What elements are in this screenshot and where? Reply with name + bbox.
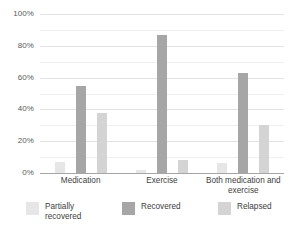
y-axis-tick-label: 100% xyxy=(13,10,34,18)
y-axis-tick-label: 40% xyxy=(18,105,34,113)
bar[interactable] xyxy=(259,125,269,173)
bar-chart: 100%80%60%40%20%0% MedicationExerciseBot… xyxy=(0,0,292,242)
bar[interactable] xyxy=(217,163,227,173)
axis-baseline xyxy=(40,173,284,174)
y-axis-tick-label: 80% xyxy=(18,42,34,50)
legend-item[interactable]: Recovered xyxy=(100,202,196,215)
legend-label: Relapsed xyxy=(237,202,272,212)
legend-label: Recovered xyxy=(141,202,181,212)
legend-swatch-icon xyxy=(122,202,135,215)
bar[interactable] xyxy=(97,113,107,173)
category-label: Medication xyxy=(40,176,121,196)
chart-legend: Partially recoveredRecoveredRelapsed xyxy=(0,202,292,236)
bar[interactable] xyxy=(55,162,65,173)
category-label: Exercise xyxy=(121,176,202,196)
bar[interactable] xyxy=(157,35,167,173)
bar-group xyxy=(40,14,121,173)
bar[interactable] xyxy=(76,86,86,173)
category-axis-labels: MedicationExerciseBoth medication and ex… xyxy=(40,176,284,196)
legend-item[interactable]: Relapsed xyxy=(196,202,292,215)
legend-swatch-icon xyxy=(26,202,39,215)
plot-area xyxy=(40,14,284,173)
bar[interactable] xyxy=(238,73,248,173)
legend-label: Partially recovered xyxy=(45,202,100,221)
y-axis-tick-label: 60% xyxy=(18,74,34,82)
legend-swatch-icon xyxy=(218,202,231,215)
legend-item[interactable]: Partially recovered xyxy=(0,202,100,221)
y-axis-tick-label: 0% xyxy=(22,169,34,177)
bar-group xyxy=(121,14,202,173)
bar-group xyxy=(203,14,284,173)
bar-groups xyxy=(40,14,284,173)
y-axis-tick-label: 20% xyxy=(18,137,34,145)
y-axis: 100%80%60%40%20%0% xyxy=(0,0,36,190)
bar[interactable] xyxy=(136,170,146,173)
category-label: Both medication and exercise xyxy=(203,176,284,196)
plot-wrapper: 100%80%60%40%20%0% xyxy=(0,0,292,190)
bar[interactable] xyxy=(178,160,188,173)
